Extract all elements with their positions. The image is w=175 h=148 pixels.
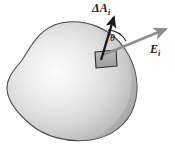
area-vector-symbol: ΔA xyxy=(92,1,108,15)
area-vector-label: ΔAi xyxy=(92,2,110,18)
field-vector-label: Ei xyxy=(150,43,160,59)
area-vector-subscript: i xyxy=(108,8,110,17)
field-vector-subscript: i xyxy=(158,49,160,58)
field-vector-symbol: E xyxy=(150,42,158,56)
figure-canvas xyxy=(0,0,175,148)
angle-label: θ xyxy=(110,33,115,43)
physics-figure: ΔAi Ei θ xyxy=(0,0,175,148)
closed-surface-blob xyxy=(7,22,137,141)
